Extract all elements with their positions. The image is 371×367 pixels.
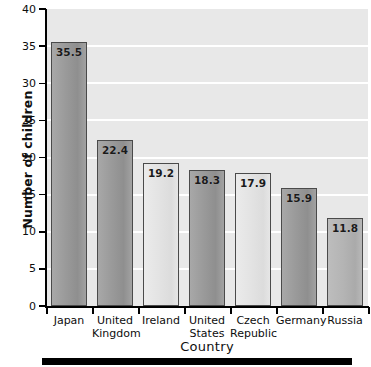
x-axis-line: [45, 306, 369, 308]
x-axis-label-united-states: UnitedStates: [184, 315, 230, 340]
x-tick: [276, 307, 278, 314]
x-axis-title: Country: [46, 339, 368, 354]
y-tick-label: 15: [6, 189, 36, 200]
y-tick: [39, 83, 46, 85]
y-tick-label: 10: [6, 226, 36, 237]
y-tick: [39, 268, 46, 270]
x-axis-label-czech-republic: CzechRepublic: [230, 315, 276, 340]
bottom-rule: [42, 358, 352, 365]
plot-area: 35.522.419.218.317.915.911.8: [46, 9, 368, 306]
y-tick: [39, 305, 46, 307]
y-tick: [39, 194, 46, 196]
x-tick: [92, 307, 94, 314]
x-tick: [184, 307, 186, 314]
y-tick-label: 35: [6, 41, 36, 52]
bar-value-label: 11.8: [332, 223, 358, 234]
bar-czech-republic: 17.9: [235, 173, 272, 306]
y-tick: [39, 157, 46, 159]
x-axis-label-united-kingdom: UnitedKingdom: [92, 315, 138, 340]
bar-russia: 11.8: [327, 218, 364, 306]
y-tick-label: 30: [6, 78, 36, 89]
bar-value-label: 35.5: [56, 47, 82, 58]
bar-united-kingdom: 22.4: [97, 140, 134, 306]
x-axis-label-russia: Russia: [322, 315, 368, 328]
x-tick: [46, 307, 48, 314]
x-axis-label-line: United: [184, 315, 230, 328]
x-tick: [368, 307, 370, 314]
y-tick: [39, 8, 46, 10]
y-tick-label: 0: [6, 301, 36, 312]
x-axis-label-line: Russia: [322, 315, 368, 328]
bar-germany: 15.9: [281, 188, 318, 306]
x-axis-label-line: Czech: [230, 315, 276, 328]
bar-value-label: 15.9: [286, 193, 312, 204]
x-axis-label-line: Germany: [276, 315, 322, 328]
bar-ireland: 19.2: [143, 163, 180, 306]
bar-japan: 35.5: [51, 42, 88, 306]
bar-value-label: 22.4: [102, 145, 128, 156]
x-axis-label-ireland: Ireland: [138, 315, 184, 328]
y-tick: [39, 45, 46, 47]
bars-group: 35.522.419.218.317.915.911.8: [46, 9, 368, 306]
y-tick: [39, 231, 46, 233]
y-tick: [39, 120, 46, 122]
x-axis-label-germany: Germany: [276, 315, 322, 328]
x-tick: [138, 307, 140, 314]
bar-value-label: 17.9: [240, 178, 266, 189]
x-axis-label-line: United: [92, 315, 138, 328]
x-axis-label-line: Ireland: [138, 315, 184, 328]
x-tick: [230, 307, 232, 314]
bar-value-label: 18.3: [194, 175, 220, 186]
x-tick: [322, 307, 324, 314]
y-tick-label: 25: [6, 115, 36, 126]
x-axis-label-line: Japan: [46, 315, 92, 328]
y-tick-label: 5: [6, 263, 36, 274]
bar-value-label: 19.2: [148, 168, 174, 179]
y-tick-label: 20: [6, 152, 36, 163]
x-axis-label-japan: Japan: [46, 315, 92, 328]
y-tick-label: 40: [6, 4, 36, 15]
bar-chart: Number of children 35.522.419.218.317.91…: [0, 0, 371, 367]
bar-united-states: 18.3: [189, 170, 226, 306]
